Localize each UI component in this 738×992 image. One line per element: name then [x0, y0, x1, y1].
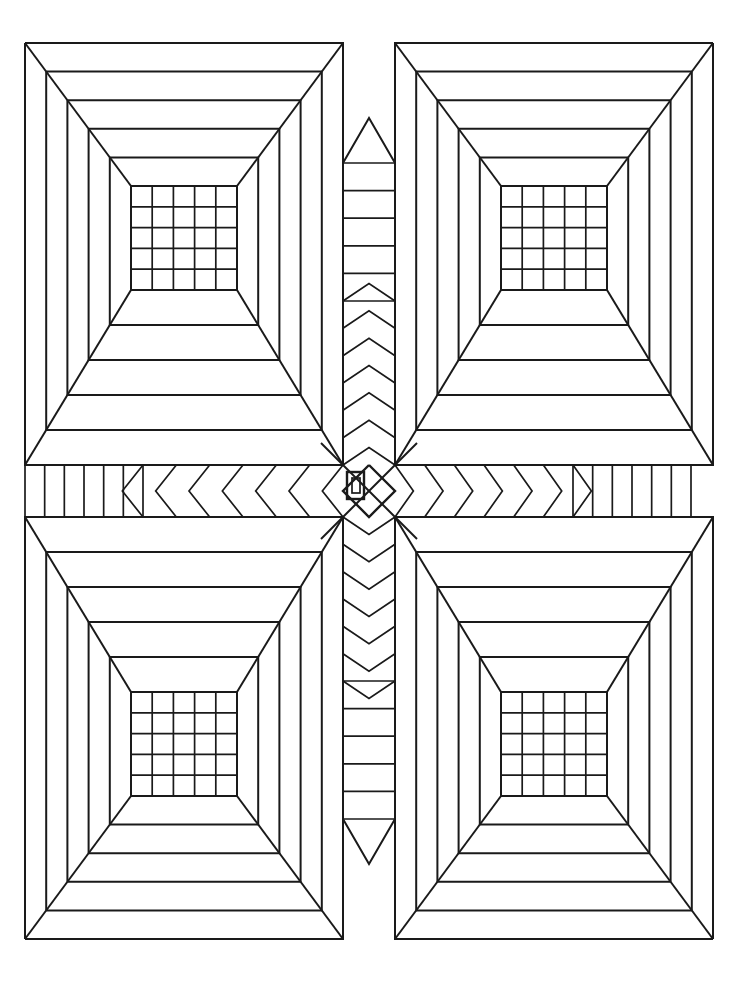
- quilt-block-figure: [0, 0, 738, 992]
- artboard: [0, 0, 738, 992]
- page-background: [0, 0, 738, 992]
